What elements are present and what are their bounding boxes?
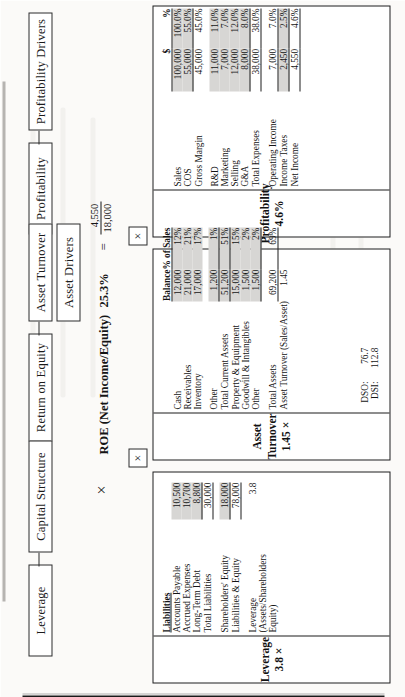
row-value: 15,000	[230, 269, 241, 301]
row-label: Total Liabilities	[202, 519, 213, 632]
roe-fraction-denominator: 18,000	[101, 201, 113, 234]
table-row: Receivables21,00021%	[182, 227, 192, 409]
row-value: 38.0%	[250, 8, 261, 48]
column-header: % of Sales	[161, 227, 172, 269]
row-label: Equity)	[267, 519, 277, 632]
row-label: Long-Term Debt	[191, 519, 202, 632]
asset-turnover-table: Asset Turnover 1.45 × Balance% of SalesC…	[152, 248, 390, 460]
memo-row: DSO:76.7	[359, 347, 369, 407]
node-leverage[interactable]: Leverage	[28, 564, 52, 656]
row-value: 38,000	[250, 48, 261, 91]
row-label: Gross Margin	[193, 91, 204, 186]
row-spacer	[213, 482, 220, 632]
row-label: Receivables	[182, 301, 192, 409]
table-section-header-row: Liabilities	[161, 482, 171, 632]
memo-value: 76.7	[359, 347, 369, 381]
row-label: Inventory	[192, 301, 202, 409]
node-asset-turnover[interactable]: Asset Turnover	[28, 223, 52, 321]
table-row: Total Liabilities30,000	[202, 482, 213, 632]
row-spacer	[202, 227, 208, 409]
row-value: 1%	[208, 227, 219, 269]
node-label: Profitability	[33, 157, 48, 220]
table-row: G&A8,0008.0%	[239, 8, 250, 186]
row-value: 100.0%	[172, 8, 183, 48]
table-row: Operating Income7,0007.0%	[267, 8, 278, 186]
row-value: 1,500	[240, 269, 250, 301]
node-label: Return on Equity	[33, 342, 48, 431]
node-profitability[interactable]: Profitability	[28, 142, 52, 234]
column-header: $	[161, 48, 172, 91]
leverage-table-body: LiabilitiesAccounts Payable10,500Accrued…	[153, 472, 389, 636]
table-row: Long-Term Debt8,800	[191, 482, 202, 632]
roe-fraction: 4,550 18,000	[88, 201, 113, 234]
node-capital-structure[interactable]: Capital Structure	[28, 440, 52, 552]
node-label: Leverage	[33, 586, 48, 634]
row-value: 17%	[192, 227, 202, 269]
connector-profitability	[38, 130, 39, 144]
node-asset-drivers-row[interactable]: Asset Drivers	[56, 223, 80, 321]
row-value: 4.6%	[289, 8, 300, 48]
multiply-operator-boxed-2: ×	[128, 226, 147, 245]
row-value: 12,000	[172, 269, 183, 301]
table-row: Cash12,00012%	[172, 227, 183, 409]
row-value: 12%	[172, 227, 183, 269]
row-spacer	[261, 8, 268, 186]
table-row: Sales100,000100.0%	[172, 8, 183, 186]
table-header-row: Balance% of Sales	[161, 227, 172, 409]
section-header: Liabilities	[161, 519, 171, 632]
table-row: Net Income4,5504.6%	[289, 8, 300, 186]
table-row: (Assets/Shareholders	[257, 482, 267, 632]
row-value: 11,000	[209, 48, 219, 91]
asset-turnover-table-body: Balance% of SalesCash12,00012%Receivable…	[153, 249, 389, 413]
row-value: 69%	[267, 227, 278, 269]
row-label: (Assets/Shareholders	[257, 519, 267, 632]
row-value: 7.0%	[219, 8, 229, 48]
row-value: 2%	[240, 227, 250, 269]
roe-formula-label: ROE (Net Income/Equity)	[96, 314, 111, 454]
row-value: 1.45	[278, 269, 289, 301]
table-row: Other1,5002%	[250, 227, 261, 409]
section-header-spacer	[161, 482, 171, 519]
row-value: 51,200	[219, 269, 230, 301]
table-row: Total Assets69,20069%	[267, 227, 278, 409]
node-label: Profitability Drivers	[33, 18, 48, 123]
page-edge-rule-secondary	[22, 693, 384, 694]
table-row: Goodwill & Intangibles1,5002%	[240, 227, 250, 409]
row-label: Accounts Payable	[171, 519, 181, 632]
row-value	[257, 482, 267, 519]
row-label: Leverage	[247, 519, 257, 632]
row-label: G&A	[239, 91, 250, 186]
table-row: Shareholders' Equity18,000	[219, 482, 230, 632]
row-label: R&D	[209, 91, 219, 186]
row-value	[278, 227, 289, 269]
node-label: Capital Structure	[33, 452, 48, 540]
node-return-on-equity[interactable]: Return on Equity	[28, 333, 52, 441]
memo-label: DSO:	[359, 381, 369, 407]
row-label: Other	[208, 301, 219, 409]
row-label: Goodwill & Intangibles	[240, 301, 250, 409]
multiply-operator-top-1: ×	[92, 485, 110, 494]
row-value: 2%	[250, 227, 261, 269]
row-value: 69,200	[267, 269, 278, 301]
node-profitability-drivers[interactable]: Profitability Drivers	[28, 12, 52, 130]
table-row: Marketing7,0007.0%	[219, 8, 229, 186]
row-value: 18,000	[219, 482, 230, 519]
row-value: 45.0%	[193, 8, 204, 48]
asset-turnover-memo: DSO:76.7DSI:112.8	[359, 347, 379, 407]
leverage-table-title: Leverage 3.8 ×	[153, 635, 389, 682]
column-header	[161, 91, 172, 186]
leverage-title-main: Leverage	[257, 636, 271, 681]
leverage-title-sub: 3.8 ×	[271, 647, 285, 671]
row-label: Accrued Expenses	[181, 519, 191, 632]
row-label: Operating Income	[267, 91, 278, 186]
scan-ghost-text	[90, 117, 95, 397]
roe-value: 25.3%	[96, 273, 111, 307]
column-header	[161, 301, 172, 409]
row-spacer	[241, 482, 248, 632]
multiply-operator-boxed-1: ×	[128, 448, 147, 467]
row-value: 21%	[182, 227, 192, 269]
row-value: 78,000	[230, 482, 241, 519]
profitability-title-sub: 4.6%	[271, 200, 285, 226]
table-row: Income Taxes2,4502.5%	[278, 8, 289, 186]
row-label: Sales	[172, 91, 183, 186]
